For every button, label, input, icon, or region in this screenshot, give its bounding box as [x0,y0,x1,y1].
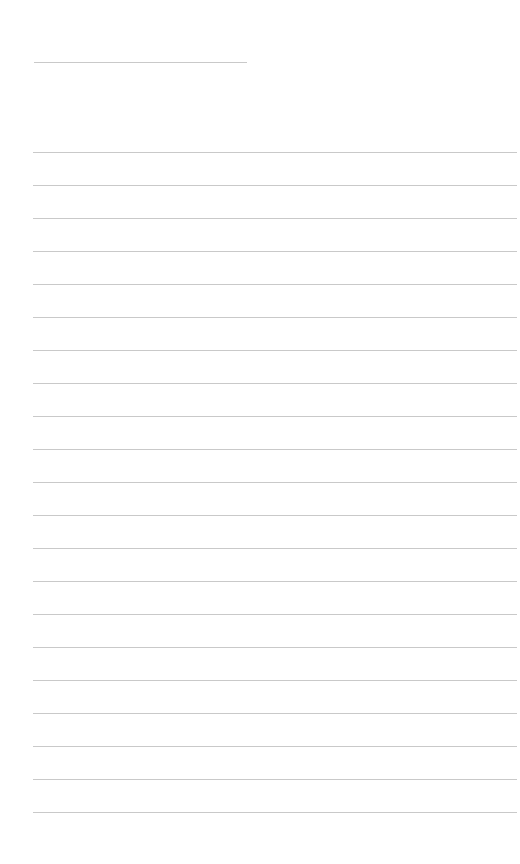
ruled-line [33,350,517,351]
ruled-line [33,713,517,714]
ruled-line [33,218,517,219]
ruled-line [33,515,517,516]
ruled-line [33,779,517,780]
lined-paper-page [0,0,520,864]
ruled-line [33,581,517,582]
ruled-line [33,647,517,648]
ruled-line [33,614,517,615]
ruled-line [33,812,517,813]
ruled-line [33,548,517,549]
ruled-line [33,152,517,153]
ruled-line [33,251,517,252]
ruled-line [33,284,517,285]
ruled-line [33,680,517,681]
ruled-line [33,317,517,318]
ruled-line [33,746,517,747]
title-line [34,62,247,63]
ruled-line [33,383,517,384]
ruled-line [33,416,517,417]
ruled-line [33,449,517,450]
ruled-line [33,185,517,186]
ruled-line [33,482,517,483]
